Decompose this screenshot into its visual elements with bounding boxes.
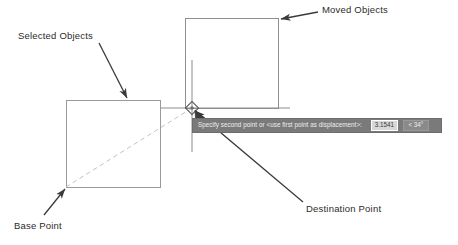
source-rectangle bbox=[67, 101, 161, 188]
annotation-destination-point: Destination Point bbox=[306, 203, 381, 214]
displacement-line bbox=[66, 108, 192, 187]
endpoint-osnap-marker bbox=[185, 101, 198, 114]
annotation-selected-objects: Selected Objects bbox=[18, 30, 93, 41]
crosshair-icon bbox=[160, 60, 290, 152]
annotation-base-point: Base Point bbox=[14, 220, 62, 231]
moved-rectangle bbox=[186, 19, 279, 109]
leader-base-point bbox=[44, 189, 65, 215]
leader-selected-objects bbox=[99, 43, 127, 98]
command-prompt-text: Specify second point or <use first point… bbox=[195, 122, 362, 128]
command-prompt-bar[interactable]: Specify second point or <use first point… bbox=[192, 118, 442, 133]
annotation-moved-objects: Moved Objects bbox=[322, 4, 388, 15]
autocad-move-illustration: Selected Objects Moved Objects Base Poin… bbox=[0, 0, 458, 245]
leader-moved-objects bbox=[281, 12, 318, 19]
distance-input[interactable]: 3.1541 bbox=[371, 120, 398, 131]
angle-input[interactable]: < 34° bbox=[403, 120, 429, 131]
